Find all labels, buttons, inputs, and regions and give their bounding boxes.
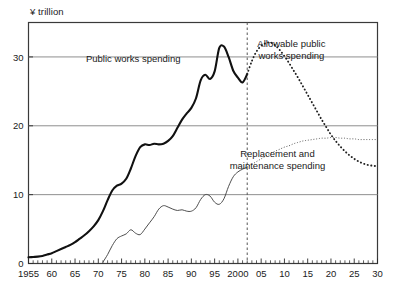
y-tick-label-20: 20: [13, 120, 24, 131]
x-tick-label-2025: 25: [349, 268, 360, 279]
x-tick-label-1965: 65: [70, 268, 81, 279]
chart-figure: ¥ trillion 01020301955606570758085909520…: [0, 0, 395, 283]
y-tick-label-30: 30: [13, 52, 24, 63]
x-tick-label-2020: 20: [326, 268, 337, 279]
x-tick-label-1960: 60: [46, 268, 57, 279]
x-tick-label-2010: 10: [279, 268, 290, 279]
x-tick-label-1990: 90: [186, 268, 197, 279]
x-tick-label-1970: 70: [93, 268, 104, 279]
annotation-line-2: works spending: [257, 50, 324, 61]
line-chart: 0102030195560657075808590952000051015202…: [0, 0, 395, 283]
plot-border: [29, 23, 378, 264]
x-tick-label-1985: 85: [163, 268, 174, 279]
annotation-line-1: Replacement and: [240, 148, 314, 159]
y-tick-label-10: 10: [13, 189, 24, 200]
x-tick-label-2005: 05: [256, 268, 267, 279]
x-tick-label-2015: 15: [302, 268, 313, 279]
x-tick-label-1955: 1955: [18, 268, 39, 279]
x-tick-label-2030: 30: [372, 268, 383, 279]
x-tick-label-1980: 80: [140, 268, 151, 279]
annotation-replacement-and-maintenance-spending: Replacement andmaintenance spending: [230, 148, 326, 172]
x-tick-label-2000: 2000: [227, 268, 248, 279]
series-line-0: [29, 45, 248, 257]
annotation-line-1: Allowable public: [257, 38, 325, 49]
x-tick-label-1995: 95: [209, 268, 220, 279]
annotation-allowable-public-works-spending: Allowable publicworks spending: [257, 38, 325, 62]
x-tick-label-1975: 75: [116, 268, 127, 279]
annotation-public-works-spending: Public works spending: [86, 53, 181, 64]
annotation-line-2: maintenance spending: [230, 160, 326, 171]
